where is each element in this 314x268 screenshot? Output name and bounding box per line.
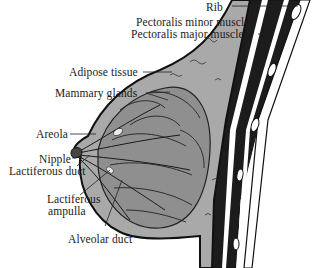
label-areola: Areola [36, 128, 68, 140]
label-nipple: Nipple [39, 153, 71, 165]
label-mammary-glands: Mammary glands [55, 87, 137, 99]
label-alveolar-duct: Alveolar duct [68, 233, 132, 245]
label-pectoralis-major: Pectoralis major muscle [131, 28, 244, 40]
label-lactiferous-ampulla-line2: ampulla [48, 205, 86, 217]
label-pectoralis-minor: Pectoralis minor muscle [136, 16, 249, 28]
label-lactiferous-duct: Lactiferous duct [9, 165, 86, 177]
label-rib: Rib [206, 1, 223, 13]
breast-anatomy-diagram: Rib Pectoralis minor muscle Pectoralis m… [0, 0, 314, 268]
label-lactiferous-ampulla-line1: Lactiferous [47, 193, 100, 205]
label-adipose-tissue: Adipose tissue [69, 66, 138, 78]
